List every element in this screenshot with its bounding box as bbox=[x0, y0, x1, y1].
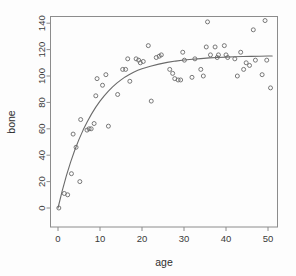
x-tick-label: 20 bbox=[137, 233, 148, 244]
x-tick-label: 30 bbox=[179, 233, 190, 244]
y-tick-label: 140 bbox=[36, 15, 47, 31]
scatter-plot: 020406080100120140 01020304050 age bone bbox=[0, 0, 296, 276]
y-tick-label: 40 bbox=[36, 150, 47, 161]
y-tick-label: 120 bbox=[36, 42, 47, 58]
x-tick-label: 50 bbox=[263, 233, 274, 244]
x-tick-label: 40 bbox=[221, 233, 232, 244]
y-tick-label: 0 bbox=[36, 205, 47, 210]
y-axis-title: bone bbox=[5, 110, 17, 134]
y-tick-label: 100 bbox=[36, 68, 47, 84]
y-tick-label: 60 bbox=[36, 124, 47, 135]
y-tick-label: 20 bbox=[36, 176, 47, 187]
x-tick-label: 0 bbox=[55, 233, 60, 244]
x-axis-title: age bbox=[155, 256, 173, 268]
chart-container: 020406080100120140 01020304050 age bone bbox=[0, 0, 296, 276]
plot-background bbox=[0, 0, 296, 276]
x-tick-label: 10 bbox=[95, 233, 106, 244]
y-tick-label: 80 bbox=[36, 97, 47, 108]
